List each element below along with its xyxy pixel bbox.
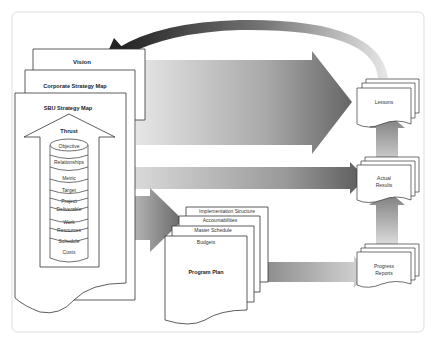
cylinder-item: Work (63, 219, 75, 225)
implementation-structure-label: Implementation Structure (199, 208, 255, 214)
arrow-vision-to-lessons (136, 51, 352, 154)
strategy-execution-diagram: Vision Corporate Strategy Map SBU Strate… (0, 0, 434, 345)
lessons-label: Lessons (375, 99, 394, 105)
cylinder-item: Schedule (59, 238, 80, 244)
progress-reports-label: Reports (375, 270, 393, 276)
progress-reports-label: Progress (374, 263, 395, 269)
master-schedule-label: Master Schedule (194, 227, 232, 233)
corporate-strategy-map-label: Corporate Strategy Map (43, 83, 107, 89)
strategy-stack: Vision Corporate Strategy Map SBU Strate… (15, 49, 145, 313)
cylinder-item: Target (62, 187, 77, 193)
cylinder-item: Objective (59, 143, 80, 149)
accountabilities-label: Accountabilities (203, 217, 238, 223)
sbu-strategy-map-label: SBU Strategy Map (44, 105, 93, 111)
actual-results-label: Actual (377, 175, 391, 181)
cylinder-item: Relationships (54, 159, 85, 165)
thrust-label: Thrust (60, 128, 78, 134)
cylinder-item: Project (61, 198, 77, 204)
budgets-label: Budgets (197, 239, 216, 245)
vision-label: Vision (73, 59, 91, 65)
cylinder-item: Deliverable (56, 206, 81, 212)
cylinder-item: Costs (63, 249, 76, 255)
cylinder-item: Resources (57, 227, 81, 233)
cylinder-item: Metric (62, 175, 76, 181)
actual-results-label: Results (376, 182, 393, 188)
program-plan-label: Program Plan (188, 269, 223, 275)
